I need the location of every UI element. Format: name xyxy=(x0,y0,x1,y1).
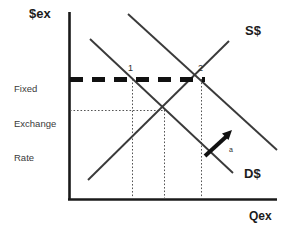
shift-arrow-label: a xyxy=(229,144,233,155)
demand-shift-arrow xyxy=(205,130,232,156)
fixed-rate-line-1: Fixed xyxy=(14,83,56,95)
fixed-exchange-rate-label: Fixed Exchange Rate xyxy=(14,60,56,187)
fixed-rate-line-3: Rate xyxy=(14,152,56,164)
supply-curve-label: S$ xyxy=(245,25,261,36)
point-2-label: 2 xyxy=(198,63,203,74)
y-axis-label: $ex xyxy=(29,8,51,19)
diagram-canvas: $ex Qex S$ D$ Fixed Exchange Rate 1 2 a xyxy=(0,0,293,235)
fixed-rate-line-2: Exchange xyxy=(14,118,56,130)
x-axis-label: Qex xyxy=(249,211,272,222)
point-1-label: 1 xyxy=(128,63,133,74)
demand-curve-label: D$ xyxy=(244,168,261,179)
